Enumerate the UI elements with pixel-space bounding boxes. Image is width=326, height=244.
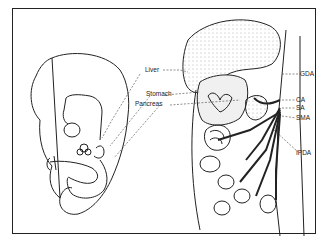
label-pancreas: Pancreas [135,101,162,108]
label-sa: SA [296,105,305,112]
diagram-canvas [0,0,326,244]
label-ca: CA [296,97,305,104]
label-liver: Liver [145,67,159,74]
label-gda: GDA [300,71,314,78]
label-ipda: IPDA [296,150,311,157]
label-sma: SMA [296,115,310,122]
detail-panel [183,20,304,236]
label-stomach: Stomach [146,91,172,98]
embryo-outline [31,54,129,215]
